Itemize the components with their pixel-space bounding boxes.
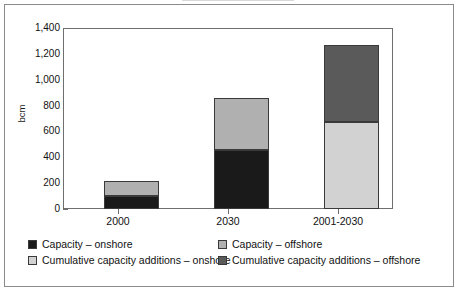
legend-item-capacity-onshore[interactable]: Capacity – onshore <box>28 238 218 250</box>
y-tick-label: 800 <box>20 101 60 111</box>
x-tick-mark <box>338 209 339 214</box>
bar-2000[interactable] <box>104 181 159 209</box>
top-edge-artifact <box>182 0 294 1</box>
legend-label: Capacity – onshore <box>42 238 132 250</box>
y-tick-label: 600 <box>20 126 60 136</box>
chart-legend: Capacity – onshore Capacity – offshore C… <box>28 236 448 268</box>
bar-segment-capacity-onshore[interactable] <box>214 150 269 210</box>
bar-2001-2030[interactable] <box>324 45 379 209</box>
x-axis-label-2001-2030: 2001-2030 <box>283 215 393 227</box>
chart-figure: bcm 0 200 400 600 800 1,000 1,200 1,400 <box>0 0 458 291</box>
x-tick-mark <box>118 209 119 214</box>
bar-segment-capacity-offshore[interactable] <box>104 181 159 196</box>
x-tick-mark <box>228 209 229 214</box>
legend-swatch-icon <box>218 240 227 249</box>
x-axis-label-2030: 2030 <box>173 215 283 227</box>
y-tick-label: 1,400 <box>20 23 60 33</box>
y-tick-label: 400 <box>20 152 60 162</box>
legend-swatch-icon <box>28 240 37 249</box>
y-tick-label: 1,000 <box>20 75 60 85</box>
y-tick-label: 0 <box>20 204 60 214</box>
y-tick-label: 1,200 <box>20 49 60 59</box>
bar-2030[interactable] <box>214 99 269 210</box>
y-tick-mark <box>63 209 68 210</box>
bar-segment-cumulative-offshore[interactable] <box>324 45 379 122</box>
x-axis-label-2000: 2000 <box>63 215 173 227</box>
legend-item-capacity-offshore[interactable]: Capacity – offshore <box>218 238 448 250</box>
bar-segment-capacity-onshore[interactable] <box>104 196 159 209</box>
legend-label: Cumulative capacity additions – offshore <box>232 254 420 266</box>
bar-segment-capacity-offshore[interactable] <box>214 98 269 149</box>
y-axis-tick-labels: 0 200 400 600 800 1,000 1,200 1,400 <box>16 28 60 209</box>
legend-label: Cumulative capacity additions – onshore <box>42 254 231 266</box>
bars-layer <box>63 28 393 209</box>
legend-swatch-icon <box>28 256 37 265</box>
y-tick-label: 200 <box>20 178 60 188</box>
legend-swatch-icon <box>218 256 227 265</box>
legend-label: Capacity – offshore <box>232 238 322 250</box>
legend-item-cumulative-onshore[interactable]: Cumulative capacity additions – onshore <box>28 254 218 266</box>
legend-item-cumulative-offshore[interactable]: Cumulative capacity additions – offshore <box>218 254 448 266</box>
bar-segment-cumulative-onshore[interactable] <box>324 122 379 209</box>
